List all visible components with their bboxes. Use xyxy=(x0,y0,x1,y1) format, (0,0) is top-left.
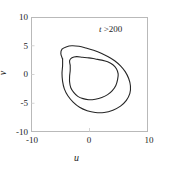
x-axis-label: u xyxy=(74,153,79,163)
phase-portrait-curves xyxy=(31,17,148,132)
axis-tick-marks xyxy=(31,46,90,132)
y-axis-label: v xyxy=(0,71,8,75)
xtick-label-neg10: -10 xyxy=(17,136,47,145)
ytick-label-10: 10 xyxy=(2,13,28,22)
ytick-label-5: 5 xyxy=(2,42,28,51)
xtick-label-0: 0 xyxy=(74,136,104,145)
phase-portrait-figure: 10 5 0 -5 -10 -10 0 10 v u t >200 xyxy=(0,0,170,170)
annotation-condition: >200 xyxy=(102,24,123,34)
outer-loop-path xyxy=(61,46,131,113)
time-annotation: t >200 xyxy=(99,25,122,34)
xtick-label-10: 10 xyxy=(134,136,164,145)
ytick-label-neg5: -5 xyxy=(2,99,28,108)
inner-loop-path xyxy=(69,57,118,100)
